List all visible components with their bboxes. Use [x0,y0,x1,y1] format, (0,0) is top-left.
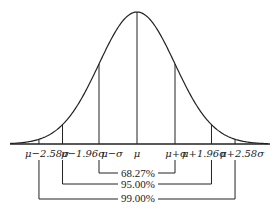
interval-label-99: 99.00% [121,192,155,204]
bell-curve [10,12,268,144]
tick-label: μ [134,148,141,159]
interval-lines [39,12,235,144]
tick-label: μ+2.58σ [220,148,265,159]
tick-label: μ−1.96σ [61,148,106,159]
interval-label-95: 95.00% [121,178,155,190]
diagram-canvas: μ−2.58σ μ−1.96σ μ−σ μ μ+σ μ+1.96σ μ+2.58… [0,0,277,215]
normal-distribution-diagram: μ−2.58σ μ−1.96σ μ−σ μ μ+σ μ+1.96σ μ+2.58… [0,0,277,215]
tick-label: μ−σ [101,148,124,159]
